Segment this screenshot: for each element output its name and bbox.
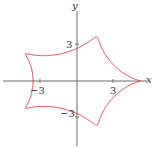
x-tick-label-pos: 3 <box>110 86 116 96</box>
y-axis-label: y <box>72 1 78 11</box>
x-tick-label-neg: −3 <box>30 86 45 96</box>
y-tick-label-neg: −3 <box>60 109 75 119</box>
x-axis-label: x <box>146 75 152 85</box>
plot-area <box>0 0 155 148</box>
y-tick-label-pos: 3 <box>66 40 72 50</box>
